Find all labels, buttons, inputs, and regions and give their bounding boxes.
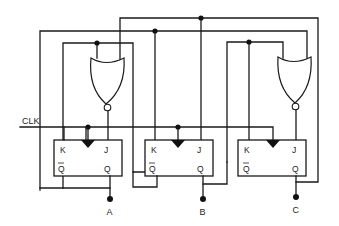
flip-flop-c: K J Q Q: [238, 140, 306, 176]
ff-a-k-label: K: [60, 145, 66, 155]
ff-a-q-label: Q: [104, 164, 111, 174]
junction-dot: [198, 15, 203, 20]
ff-b-q-label: Q: [197, 164, 204, 174]
output-c-node: [293, 194, 299, 200]
nor1-output-bubble: [104, 104, 111, 111]
ff-b-k-label: K: [151, 145, 157, 155]
ff-c-j-label: J: [292, 145, 296, 155]
counter-circuit-diagram: CLK K J Q Q A K J Q Q B K J Q Q: [0, 0, 339, 226]
junction-dot: [152, 28, 157, 33]
output-b-node: [200, 196, 206, 202]
nor2-output-bubble: [292, 103, 299, 110]
output-a-node: [107, 196, 113, 202]
ff-a-qbar-label: Q: [58, 164, 65, 174]
nor-gate-2: [278, 57, 311, 110]
ff-c-qbar-label: Q: [243, 164, 250, 174]
junction-dot: [85, 124, 90, 129]
nor-gate-1: [91, 58, 125, 111]
ff-c-k-label: K: [244, 145, 250, 155]
output-a-label: A: [107, 207, 113, 217]
output-c-label: C: [293, 205, 300, 215]
ff-b-j-label: J: [197, 145, 201, 155]
flip-flop-a: K J Q Q: [54, 140, 122, 176]
ff-a-j-label: J: [104, 145, 108, 155]
ff-c-q-label: Q: [292, 164, 299, 174]
junction-dot: [175, 124, 180, 129]
junction-dot: [246, 39, 251, 44]
ff-b-qbar-label: Q: [149, 164, 156, 174]
clock-label: CLK: [22, 116, 40, 126]
junction-dot: [94, 40, 99, 45]
output-b-label: B: [200, 207, 206, 217]
flip-flop-b: K J Q Q: [145, 140, 213, 176]
clock-line: [20, 127, 273, 140]
